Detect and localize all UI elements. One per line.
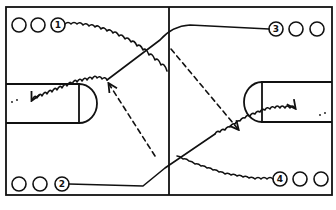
dribble-path-4 [177, 156, 273, 179]
player-circle [31, 18, 45, 32]
pass-line-2 [109, 84, 155, 156]
player-4-label: 4 [277, 174, 283, 184]
cut-path-2 [69, 134, 215, 186]
player-circle [314, 172, 328, 186]
player-group-2: 2 [12, 177, 69, 191]
player-circle [293, 172, 307, 186]
player-circle [310, 22, 324, 36]
player-group-3: 3 [269, 22, 324, 36]
player-circle [289, 22, 303, 36]
cut-path-3 [107, 25, 269, 80]
player-circle [12, 18, 26, 32]
player-circle [33, 177, 47, 191]
player-circle [12, 177, 26, 191]
player-2-label: 2 [59, 179, 65, 189]
continuation-dot [16, 99, 18, 101]
continuation-dot [324, 112, 326, 114]
pass-line-1 [171, 49, 238, 129]
right-key [244, 82, 332, 122]
drill-diagram: 1 2 3 4 [0, 0, 336, 210]
continuation-dot [11, 101, 13, 103]
left-key [6, 84, 97, 123]
continuation-dot [319, 114, 321, 116]
player-1-label: 1 [55, 20, 61, 30]
player-3-label: 3 [273, 24, 279, 34]
player-group-1: 1 [12, 18, 65, 32]
player-group-4: 4 [273, 172, 328, 186]
